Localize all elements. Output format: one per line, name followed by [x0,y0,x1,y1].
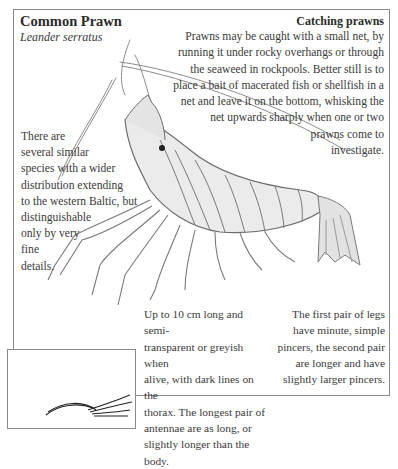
text-line: Up to 10 cm long and semi- [144,306,269,339]
page-title: Common Prawn [20,13,122,30]
text-line: have minute, simple [263,322,385,338]
text-line: prawns come to [144,127,384,143]
legs-text: The first pair of legs have minute, simp… [263,306,385,387]
text-line: thorax. The longest pair of [144,404,269,420]
text-line: There are [21,129,146,145]
text-line: species with a wider [21,161,146,177]
text-line: details. [21,259,146,275]
catching-text: Prawns may be caught with a small net, b… [144,29,384,159]
text-line: transparent or greyish when [144,339,269,372]
text-line: alive, with dark lines on the [144,371,269,404]
text-line: place a bait of macerated fish or shellf… [144,78,384,94]
text-line: distinguishable [21,210,146,226]
text-line: distribution extending [21,178,146,194]
description-text: Up to 10 cm long and semi- transparent o… [144,306,269,469]
inset-box [7,349,136,429]
text-line: pincers, the second pair [263,339,385,355]
latin-name: Leander serratus [20,30,102,45]
text-line: The first pair of legs [263,306,385,322]
text-line: slightly larger pincers. [263,371,385,387]
text-line: only by very [21,226,146,242]
text-line: to the western Baltic, but [21,194,146,210]
catching-title: Catching prawns [296,14,384,29]
text-line: fine [21,242,146,258]
text-line: slightly longer than the body. [144,436,269,469]
similar-species-text: There are several similar species with a… [21,129,146,275]
text-line: Prawns may be caught with a small net, b… [144,29,384,45]
text-line: running it under rocky overhangs or thro… [144,45,384,61]
text-line: net upwards sharply when one or two [144,110,384,126]
text-line: net and leave it on the bottom, whisking… [144,94,384,110]
text-line: several similar [21,145,146,161]
text-line: antennae are as long, or [144,420,269,436]
text-line: are longer and have [263,355,385,371]
text-line: the seaweed in rockpools. Better still i… [144,62,384,78]
text-line: investigate. [144,143,384,159]
inset-illustration [8,350,137,430]
